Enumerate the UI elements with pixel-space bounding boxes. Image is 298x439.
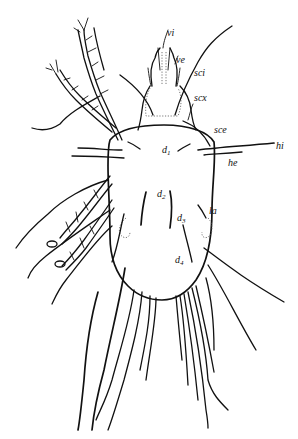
label-scx: scx — [194, 92, 207, 103]
legs-front — [32, 18, 122, 140]
label-d2: d2 — [157, 188, 166, 201]
label-d3: d3 — [177, 212, 186, 225]
label-la: la — [209, 205, 217, 216]
label-vi: vi — [167, 27, 174, 38]
mite-illustration: vi ve sci scx sce hi d1 he d2 la d3 d4 — [0, 0, 298, 439]
label-d4: d4 — [175, 254, 184, 267]
legs-rear — [16, 176, 114, 304]
label-sce: sce — [214, 124, 227, 135]
label-hi: hi — [276, 140, 284, 151]
posterior-setae — [78, 268, 228, 430]
label-sci: sci — [194, 67, 205, 78]
label-d1: d1 — [162, 144, 171, 157]
label-he: he — [228, 157, 238, 168]
label-ve: ve — [176, 54, 185, 65]
